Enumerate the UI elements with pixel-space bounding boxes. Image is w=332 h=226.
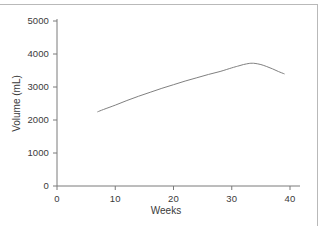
y-axis-tick-label: 0 [0, 180, 49, 191]
y-axis-title: Volume (mL) [11, 59, 22, 149]
x-axis-tick-marks [57, 186, 290, 190]
x-axis-tick-label: 20 [154, 193, 194, 204]
chart-figure: 010002000300040005000 010203040 Weeks Vo… [0, 0, 332, 226]
x-axis-title: Weeks [0, 205, 332, 216]
y-axis-title-wrapper: Volume (mL) [8, 60, 24, 150]
data-series-line [98, 63, 284, 112]
x-axis-tick-label: 0 [37, 193, 77, 204]
y-axis-tick-label: 4000 [0, 48, 49, 59]
x-axis-tick-label: 10 [95, 193, 135, 204]
x-axis-tick-label: 40 [270, 193, 310, 204]
x-axis-tick-label: 30 [212, 193, 252, 204]
y-axis-tick-label: 5000 [0, 15, 49, 26]
y-axis-tick-marks [53, 21, 57, 186]
